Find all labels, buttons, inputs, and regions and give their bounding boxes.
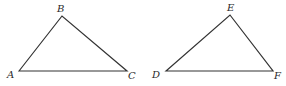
vertex-label-e: E	[226, 2, 235, 13]
triangle-diagram: A B C D E F	[0, 0, 286, 86]
vertex-label-b: B	[56, 3, 64, 14]
vertex-label-f: F	[273, 70, 282, 81]
vertex-label-a: A	[6, 69, 14, 80]
vertex-label-d: D	[151, 69, 160, 80]
triangle-abc	[19, 16, 127, 71]
triangle-def	[166, 15, 273, 71]
vertex-label-c: C	[128, 70, 136, 81]
